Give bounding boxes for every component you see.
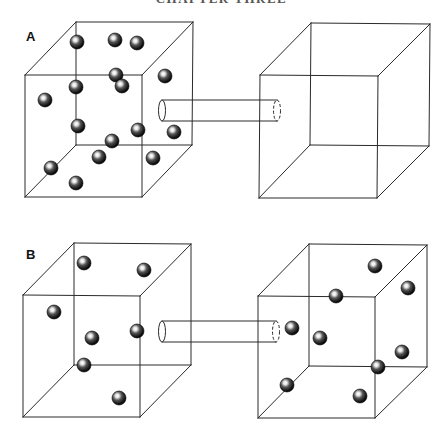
gas-molecule-sphere (105, 134, 119, 148)
gas-molecule-sphere (70, 35, 84, 49)
gas-molecule-sphere (146, 151, 160, 165)
gas-molecule-sphere (69, 80, 83, 94)
gas-molecule-sphere (44, 161, 58, 175)
gas-molecule-sphere (108, 33, 122, 47)
panel-a (25, 22, 430, 198)
connecting-tube (159, 321, 280, 342)
gas-molecule-sphere (158, 69, 172, 83)
gas-molecule-sphere (38, 93, 52, 107)
cube-right-chamber (258, 244, 427, 418)
tube-opening-right-hidden (273, 321, 280, 342)
gas-molecule-sphere (47, 305, 61, 319)
gas-molecule-sphere (130, 324, 144, 338)
gas-molecule-sphere (115, 79, 129, 93)
gas-molecule-sphere (167, 125, 181, 139)
panel-label-b: B (26, 247, 35, 262)
gas-diffusion-diagram (0, 0, 443, 436)
gas-molecule-sphere (353, 389, 367, 403)
gas-molecule-sphere (130, 36, 144, 50)
gas-molecule-sphere (77, 358, 91, 372)
gas-molecule-sphere (368, 259, 382, 273)
gas-molecule-sphere (313, 331, 327, 345)
gas-molecule-sphere (71, 119, 85, 133)
gas-molecule-sphere (69, 176, 83, 190)
gas-molecule-sphere (137, 263, 151, 277)
cube-right-chamber (259, 23, 430, 198)
gas-molecule-sphere (395, 345, 409, 359)
tube-opening-left (159, 321, 166, 342)
gas-molecule-sphere (112, 391, 126, 405)
gas-molecule-sphere (85, 331, 99, 345)
connecting-tube (159, 100, 281, 121)
gas-molecule-sphere (401, 281, 415, 295)
gas-molecule-sphere (371, 360, 385, 374)
panel-b (23, 243, 427, 418)
gas-molecule-sphere (131, 123, 145, 137)
tube-opening-right-hidden (274, 100, 281, 121)
gas-molecule-sphere (285, 321, 299, 335)
gas-molecule-sphere (92, 150, 106, 164)
gas-molecule-sphere (280, 378, 294, 392)
gas-molecule-sphere (329, 289, 343, 303)
panel-label-a: A (26, 29, 35, 44)
gas-molecule-sphere (77, 256, 91, 270)
tube-opening-left (159, 100, 166, 121)
